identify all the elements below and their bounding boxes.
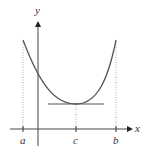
parabola-curve-fix xyxy=(23,40,116,104)
graph-svg: y x a c b xyxy=(0,0,144,159)
diagram-canvas: y x a c b xyxy=(0,0,144,159)
label-b: b xyxy=(113,134,119,146)
y-axis-label: y xyxy=(34,4,40,16)
x-axis-label: x xyxy=(134,122,140,134)
label-c: c xyxy=(73,134,78,146)
label-a: a xyxy=(20,134,26,146)
